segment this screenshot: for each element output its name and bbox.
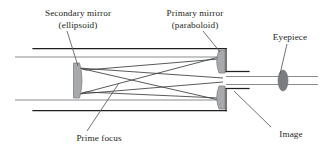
- reflected-rays: [79, 57, 223, 100]
- eyepiece-lens-ellipse: [278, 70, 288, 91]
- leader-lines: [67, 31, 287, 131]
- primary-mirror: [217, 50, 225, 109]
- label-image: Image: [268, 129, 314, 141]
- label-primary-mirror: Primary mirror (paraboloid): [146, 8, 244, 31]
- eyepiece-leader: [280, 44, 287, 74]
- secondary-mirror: [74, 63, 83, 98]
- telescope-diagram-figure: Secondary mirror (ellipsoid) Primary mir…: [0, 0, 325, 155]
- primary-mirror-upper: [217, 50, 225, 73]
- label-prime-focus: Prime focus: [60, 133, 138, 145]
- ray-spread-upper: [86, 59, 219, 70]
- label-secondary-mirror: Secondary mirror (ellipsoid): [26, 8, 130, 31]
- ray-spread-lower: [86, 92, 219, 98]
- image-leader: [234, 91, 271, 127]
- label-eyepiece: Eyepiece: [262, 32, 318, 44]
- secondary-mirror-body: [74, 63, 83, 98]
- primary-mirror-lower: [217, 86, 225, 109]
- eyepiece-lens: [278, 70, 288, 91]
